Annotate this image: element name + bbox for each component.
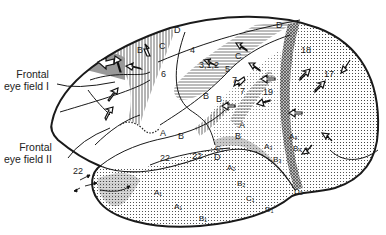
area-7a-label: 7 [232,76,237,85]
area-312-label: 3,1,2 [199,61,219,70]
label-c-parietal: C [235,52,242,61]
label-a1-b: A₁ [174,203,182,211]
label-b1: B₁ [199,215,207,223]
caption-line: eye field I [4,80,49,92]
caption-frontal-eye-field-2: Frontal eye field II [4,141,52,165]
area-7b-label: 7 [240,87,245,96]
occipital-region [85,20,380,227]
label-a1-a: A₁ [154,189,162,197]
label-d-front: D [174,26,181,35]
label-b-parietal-2: B [216,95,222,104]
label-a2: A₂ [227,164,235,172]
area-6-label: 6 [161,70,166,79]
area-22b-label: 22 [160,154,170,163]
label-b-parietal-1: B [203,92,209,101]
label-a-temporal: A [160,129,166,138]
label-b-superior: B [235,132,241,141]
label-b4: B₄ [293,145,302,153]
area-4-label: 4 [190,46,195,55]
caption-frontal-eye-field-1: Frontal eye field I [4,68,49,92]
area-17-label: 17 [324,70,334,79]
area-22a-label: 22 [192,152,202,161]
label-b-front: B [137,46,143,55]
label-a-superior: A [239,121,245,130]
brain-diagram: Frontal eye field I Frontal eye field II… [0,0,386,235]
label-d1: D₁ [265,206,273,214]
area-22c-label: 22 [73,167,83,176]
area-19-label: 19 [263,88,273,97]
label-d-parietal: D [276,21,283,30]
area-18-label: 18 [301,46,311,55]
label-d2: D₂ [294,188,303,196]
label-d-superior: D [214,153,221,162]
label-c-front: C [159,42,166,51]
label-c1: C₁ [246,195,254,203]
brain-figure [0,0,386,235]
label-b-temporal: B [178,132,184,141]
caption-line: Frontal [4,68,49,80]
area-5-label: 5 [225,65,230,74]
label-a4: A₄ [289,133,298,141]
label-b3: B₃ [273,156,282,164]
caption-line: Frontal [4,141,52,153]
label-a3: A₃ [264,143,273,151]
label-b2: B₂ [237,180,245,188]
caption-line: eye field II [4,153,52,165]
